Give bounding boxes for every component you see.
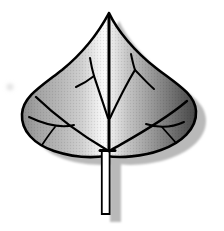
leaf-svg: [0, 0, 224, 231]
leaf-stem: [102, 151, 110, 214]
leaf-illustration: [0, 0, 224, 231]
scan-artifact: [7, 84, 13, 90]
